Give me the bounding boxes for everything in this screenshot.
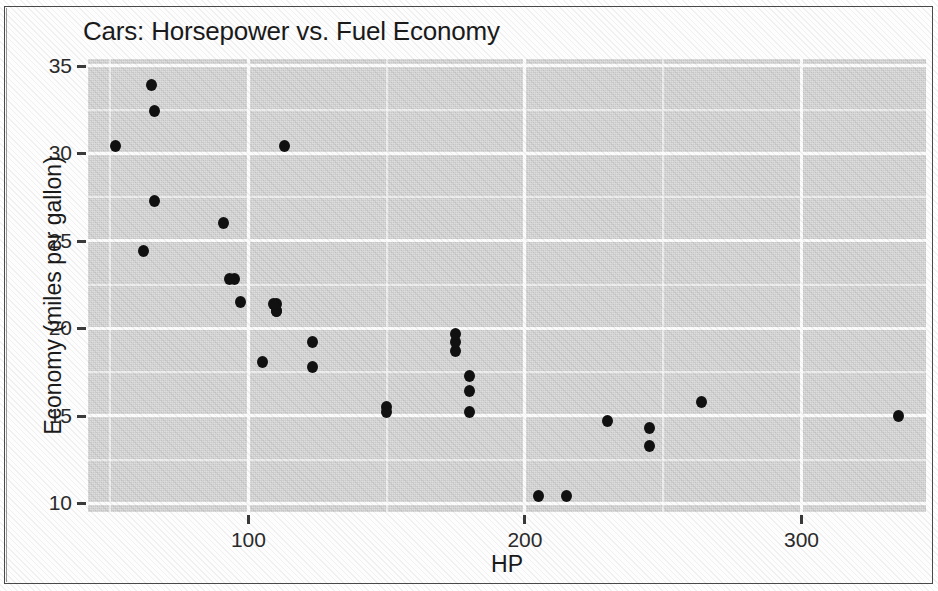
x-tick-mark [247,515,250,524]
data-point [561,490,572,502]
data-point [279,140,290,152]
x-tick-mark [800,515,803,524]
chart-title: Cars: Horsepower vs. Fuel Economy [83,16,500,47]
data-point [464,385,475,397]
x-tick-label: 100 [208,528,288,552]
y-axis-title: Economy (miles per gallon) [40,86,67,506]
data-point [138,245,149,257]
gridline-major-vertical [800,59,803,512]
y-tick-mark [77,327,86,330]
data-point [644,422,655,434]
data-point [268,298,279,310]
data-point [464,370,475,382]
y-tick-mark [77,152,86,155]
gridline-minor-vertical [109,59,111,512]
data-point [696,396,707,408]
data-point [149,195,160,207]
data-point [257,356,268,368]
data-point [110,140,121,152]
data-point [218,217,229,229]
y-tick-mark [77,502,86,505]
y-tick-mark [77,415,86,418]
data-point [307,361,318,373]
gridline-minor-vertical [386,59,388,512]
data-point [149,105,160,117]
data-point [235,296,246,308]
data-point [602,415,613,427]
gridline-minor-vertical [662,59,664,512]
data-point [533,490,544,502]
gridline-major-vertical [247,59,250,512]
x-tick-label: 300 [762,528,842,552]
gridline-major-vertical [523,59,526,512]
x-tick-label: 200 [485,528,565,552]
y-tick-mark [77,65,86,68]
plot-panel [88,59,926,512]
screenshot-root: Cars: Horsepower vs. Fuel Economy 101520… [0,0,938,591]
data-point [146,79,157,91]
data-point [644,440,655,452]
data-point [893,410,904,422]
x-tick-mark [523,515,526,524]
data-point [307,336,318,348]
x-axis-title: HP [88,551,926,578]
y-tick-label: 35 [28,54,72,78]
data-point [450,328,461,340]
y-tick-mark [77,240,86,243]
